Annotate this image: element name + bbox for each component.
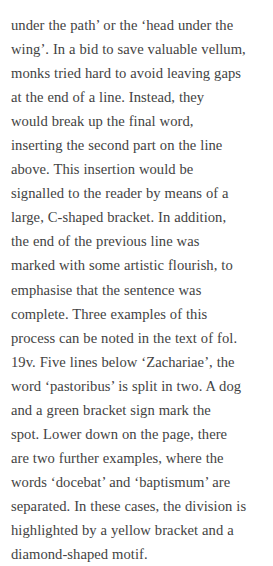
text-line: signalled to the reader by means of a	[11, 181, 269, 205]
body-text-block: under the path’ or the ‘head under thewi…	[11, 13, 269, 566]
text-line: words ‘docebat’ and ‘baptismum’ are	[11, 470, 269, 494]
text-line: marked with some artistic flourish, to	[11, 253, 269, 277]
text-line: at the end of a line. Instead, they	[11, 85, 269, 109]
text-line: diamond-shaped motif.	[11, 542, 269, 566]
text-line: separated. In these cases, the division …	[11, 494, 269, 518]
text-line: emphasise that the sentence was	[11, 278, 269, 302]
text-line: process can be noted in the text of fol.	[11, 326, 269, 350]
text-line: inserting the second part on the line	[11, 133, 269, 157]
text-line: are two further examples, where the	[11, 446, 269, 470]
text-line: would break up the final word,	[11, 109, 269, 133]
text-line: complete. Three examples of this	[11, 302, 269, 326]
text-line: wing’. In a bid to save valuable vellum,	[11, 37, 269, 61]
text-line: word ‘pastoribus’ is split in two. A dog	[11, 374, 269, 398]
text-line: spot. Lower down on the page, there	[11, 422, 269, 446]
text-line: highlighted by a yellow bracket and a	[11, 518, 269, 542]
text-line: above. This insertion would be	[11, 157, 269, 181]
text-line: 19v. Five lines below ‘Zachariae’, the	[11, 350, 269, 374]
text-line: monks tried hard to avoid leaving gaps	[11, 61, 269, 85]
text-line: the end of the previous line was	[11, 229, 269, 253]
text-line: under the path’ or the ‘head under the	[11, 13, 269, 37]
text-line: large, C-shaped bracket. In addition,	[11, 205, 269, 229]
text-line: and a green bracket sign mark the	[11, 398, 269, 422]
